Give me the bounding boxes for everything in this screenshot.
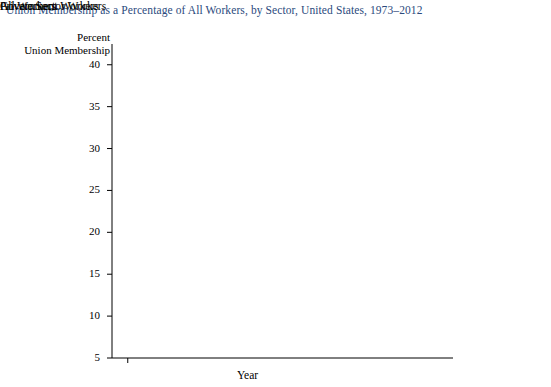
y-tick-label: 30 xyxy=(76,142,100,154)
y-tick-label: 20 xyxy=(76,225,100,237)
x-axis-label: Year xyxy=(0,369,551,381)
x-axis-label-text: Year xyxy=(237,369,258,381)
y-tick-label: 40 xyxy=(76,58,100,70)
y-tick-label: 15 xyxy=(76,267,100,279)
series-label-private-sector: Private Sector Workers xyxy=(0,0,106,12)
y-tick-label: 35 xyxy=(76,100,100,112)
chart-container: Union Membership as a Percentage of All … xyxy=(0,0,551,387)
y-tick-label: 25 xyxy=(76,183,100,195)
y-tick-label: 10 xyxy=(76,309,100,321)
y-tick-label: 5 xyxy=(76,351,100,363)
